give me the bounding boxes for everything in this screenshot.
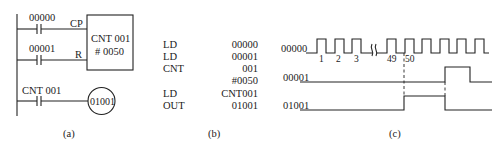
mnemonic-arg: 00000 (208, 39, 258, 50)
mnemonic-op: LD (163, 88, 177, 99)
waveform-01001 (300, 96, 492, 110)
signal-label-01001: 01001 (283, 100, 309, 111)
pulse-number: 2 (336, 54, 341, 65)
r-label: R (75, 49, 82, 60)
contact-cnt001-label: CNT 001 (22, 85, 61, 96)
waveform-00000 (306, 39, 372, 53)
mnemonic-arg: 001 (208, 63, 258, 74)
pulse-number: 49 (387, 54, 397, 65)
contact-00001-label: 00001 (29, 43, 55, 54)
counter-name: CNT 001 (91, 33, 130, 44)
mnemonic-op: OUT (163, 100, 185, 111)
pulse-number: 3 (354, 54, 359, 65)
caption-c: (c) (389, 128, 401, 139)
mnemonic-op: CNT (163, 63, 184, 74)
waveform-00001 (300, 67, 492, 82)
mnemonic-arg: 01001 (208, 100, 258, 111)
counter-preset: # 0050 (95, 46, 124, 57)
mnemonic-op: LD (163, 39, 177, 50)
pulse-number: 1 (319, 54, 324, 65)
mnemonic-arg: CNT001 (208, 88, 258, 99)
mnemonic-arg: 00001 (208, 51, 258, 62)
signal-label-00000: 00000 (281, 43, 307, 54)
cp-label: CP (70, 18, 83, 29)
mnemonic-arg: #0050 (208, 75, 258, 86)
mnemonic-op: LD (163, 51, 177, 62)
caption-b: (b) (208, 128, 220, 139)
pulse-number: 50 (405, 54, 415, 65)
contact-00000-label: 00000 (29, 12, 55, 23)
signal-label-00001: 00001 (283, 72, 309, 83)
caption-a: (a) (63, 128, 75, 139)
coil-label: 01001 (90, 96, 115, 107)
